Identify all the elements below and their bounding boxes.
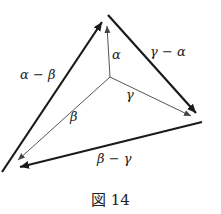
label-alpha: α bbox=[112, 48, 121, 61]
label-gamma-minus-alpha: γ − α bbox=[150, 45, 186, 58]
figure-caption: 図 14 bbox=[0, 188, 221, 209]
vector-gamma-minus-alpha bbox=[108, 15, 196, 113]
label-gamma: γ bbox=[126, 88, 134, 101]
vector-diagram bbox=[0, 0, 221, 214]
label-beta-minus-gamma: β − γ bbox=[97, 152, 131, 165]
label-alpha-minus-beta: α − β bbox=[20, 68, 55, 81]
vector-alpha bbox=[107, 26, 110, 77]
vector-gamma bbox=[110, 77, 191, 116]
label-beta: β bbox=[70, 110, 78, 123]
